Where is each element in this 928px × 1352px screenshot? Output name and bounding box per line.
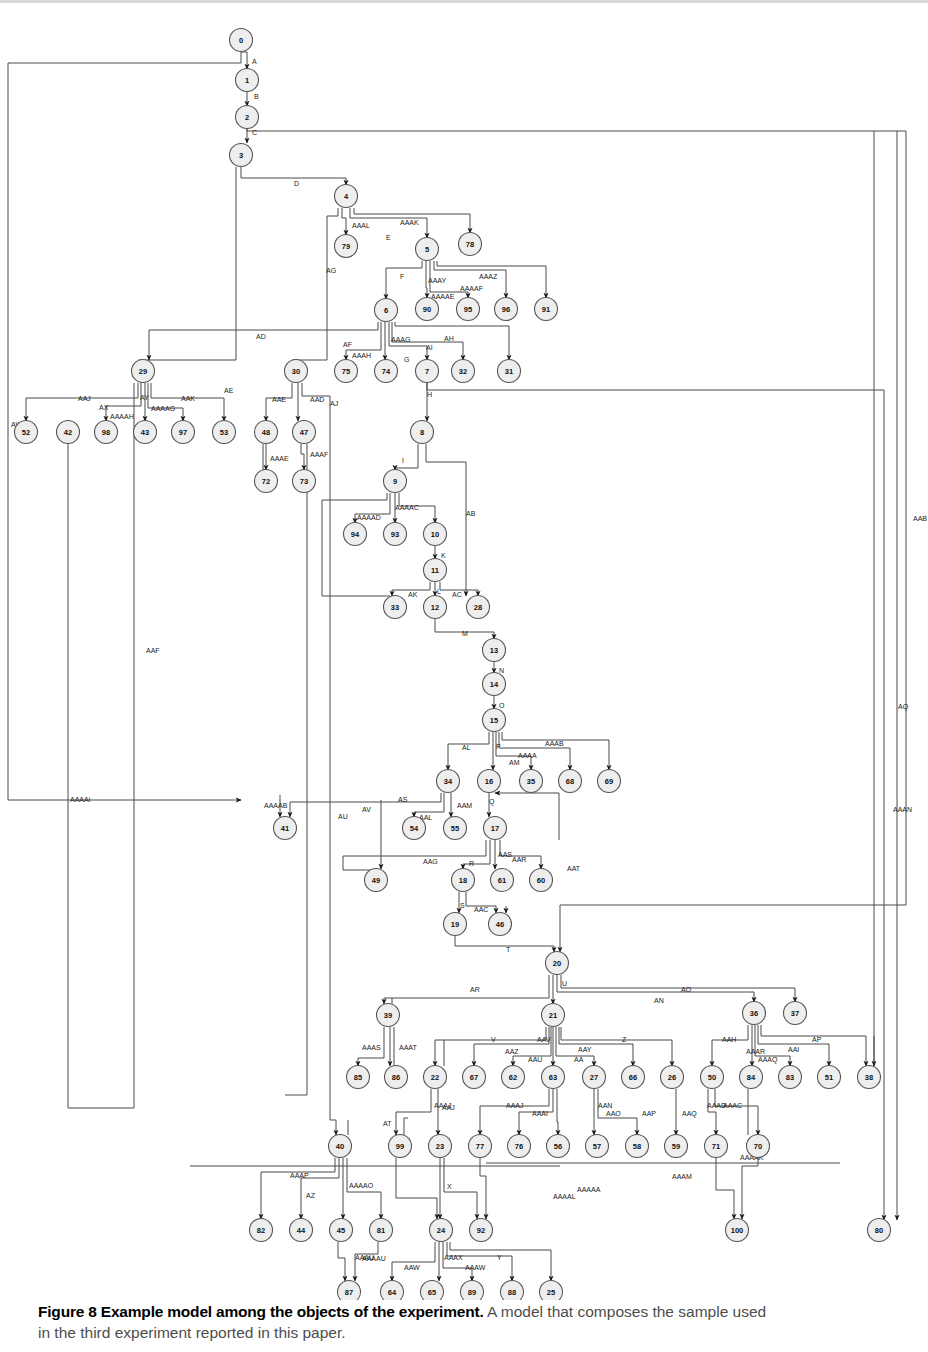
graph-node[interactable]: 15 bbox=[483, 709, 506, 732]
graph-node[interactable]: 1 bbox=[236, 69, 259, 92]
graph-node[interactable]: 0 bbox=[230, 29, 253, 52]
graph-node[interactable]: 5 bbox=[416, 238, 439, 261]
graph-node[interactable]: 7 bbox=[416, 360, 439, 383]
graph-node[interactable]: 63 bbox=[542, 1066, 565, 1089]
graph-node[interactable]: 89 bbox=[461, 1281, 484, 1301]
graph-node[interactable]: 14 bbox=[483, 673, 506, 696]
graph-node[interactable]: 50 bbox=[701, 1066, 724, 1089]
graph-node[interactable]: 43 bbox=[134, 421, 157, 444]
graph-node[interactable]: 38 bbox=[858, 1066, 881, 1089]
graph-node[interactable]: 99 bbox=[389, 1135, 412, 1158]
graph-node[interactable]: 68 bbox=[559, 770, 582, 793]
graph-node[interactable]: 55 bbox=[444, 817, 467, 840]
graph-node[interactable]: 92 bbox=[470, 1219, 493, 1242]
graph-node[interactable]: 93 bbox=[384, 523, 407, 546]
graph-node[interactable]: 18 bbox=[452, 869, 475, 892]
graph-node[interactable]: 42 bbox=[57, 421, 80, 444]
graph-node[interactable]: 84 bbox=[740, 1066, 763, 1089]
graph-node[interactable]: 29 bbox=[132, 360, 155, 383]
graph-node[interactable]: 52 bbox=[15, 421, 38, 444]
graph-node[interactable]: 88 bbox=[501, 1281, 524, 1301]
graph-node[interactable]: 83 bbox=[779, 1066, 802, 1089]
graph-node[interactable]: 9 bbox=[384, 470, 407, 493]
graph-node[interactable]: 91 bbox=[535, 298, 558, 321]
graph-node[interactable]: 3 bbox=[230, 144, 253, 167]
graph-node[interactable]: 46 bbox=[489, 913, 512, 936]
graph-node[interactable]: 94 bbox=[344, 523, 367, 546]
graph-node[interactable]: 59 bbox=[665, 1135, 688, 1158]
graph-node[interactable]: 72 bbox=[255, 470, 278, 493]
graph-node[interactable]: 44 bbox=[290, 1219, 313, 1242]
graph-node[interactable]: 96 bbox=[495, 298, 518, 321]
graph-node[interactable]: 36 bbox=[743, 1002, 766, 1025]
graph-node[interactable]: 95 bbox=[457, 298, 480, 321]
graph-node[interactable]: 12 bbox=[424, 596, 447, 619]
graph-node[interactable]: 100 bbox=[726, 1219, 749, 1242]
graph-node[interactable]: 76 bbox=[508, 1135, 531, 1158]
graph-node[interactable]: 82 bbox=[250, 1219, 273, 1242]
graph-node[interactable]: 73 bbox=[293, 470, 316, 493]
graph-node[interactable]: 8 bbox=[411, 421, 434, 444]
graph-node[interactable]: 58 bbox=[626, 1135, 649, 1158]
graph-node[interactable]: 71 bbox=[705, 1135, 728, 1158]
graph-node[interactable]: 23 bbox=[429, 1135, 452, 1158]
graph-node[interactable]: 37 bbox=[784, 1002, 807, 1025]
graph-node[interactable]: 11 bbox=[424, 559, 447, 582]
graph-node[interactable]: 19 bbox=[444, 913, 467, 936]
graph-node[interactable]: 34 bbox=[437, 770, 460, 793]
graph-node[interactable]: 56 bbox=[547, 1135, 570, 1158]
graph-node[interactable]: 20 bbox=[546, 952, 569, 975]
graph-node[interactable]: 54 bbox=[403, 817, 426, 840]
graph-node[interactable]: 4 bbox=[335, 185, 358, 208]
graph-node[interactable]: 86 bbox=[385, 1066, 408, 1089]
graph-node[interactable]: 74 bbox=[375, 360, 398, 383]
graph-node[interactable]: 77 bbox=[469, 1135, 492, 1158]
graph-node[interactable]: 97 bbox=[172, 421, 195, 444]
graph-node[interactable]: 53 bbox=[213, 421, 236, 444]
graph-node[interactable]: 60 bbox=[530, 869, 553, 892]
graph-node[interactable]: 66 bbox=[622, 1066, 645, 1089]
graph-node[interactable]: 39 bbox=[377, 1004, 400, 1027]
graph-node[interactable]: 6 bbox=[375, 299, 398, 322]
graph-node[interactable]: 79 bbox=[335, 235, 358, 258]
graph-node[interactable]: 62 bbox=[502, 1066, 525, 1089]
graph-node[interactable]: 10 bbox=[424, 523, 447, 546]
graph-node[interactable]: 70 bbox=[747, 1135, 770, 1158]
graph-node[interactable]: 17 bbox=[484, 817, 507, 840]
graph-node[interactable]: 31 bbox=[498, 360, 521, 383]
graph-node[interactable]: 25 bbox=[540, 1281, 563, 1301]
graph-node[interactable]: 57 bbox=[586, 1135, 609, 1158]
graph-node[interactable]: 65 bbox=[421, 1281, 444, 1301]
graph-node[interactable]: 61 bbox=[491, 869, 514, 892]
graph-node[interactable]: 22 bbox=[424, 1066, 447, 1089]
graph-node[interactable]: 40 bbox=[329, 1135, 352, 1158]
graph-node[interactable]: 47 bbox=[293, 421, 316, 444]
graph-node[interactable]: 30 bbox=[285, 360, 308, 383]
graph-node[interactable]: 75 bbox=[335, 360, 358, 383]
graph-node[interactable]: 33 bbox=[384, 596, 407, 619]
graph-node[interactable]: 13 bbox=[483, 639, 506, 662]
graph-node[interactable]: 81 bbox=[370, 1219, 393, 1242]
graph-node[interactable]: 69 bbox=[598, 770, 621, 793]
graph-node[interactable]: 21 bbox=[542, 1004, 565, 1027]
graph-node[interactable]: 16 bbox=[478, 770, 501, 793]
graph-node[interactable]: 32 bbox=[452, 360, 475, 383]
graph-node[interactable]: 85 bbox=[347, 1066, 370, 1089]
graph-node[interactable]: 49 bbox=[365, 869, 388, 892]
graph-node[interactable]: 51 bbox=[818, 1066, 841, 1089]
graph-node[interactable]: 45 bbox=[330, 1219, 353, 1242]
graph-node[interactable]: 48 bbox=[255, 421, 278, 444]
graph-node[interactable]: 28 bbox=[467, 596, 490, 619]
graph-node[interactable]: 67 bbox=[463, 1066, 486, 1089]
graph-node[interactable]: 64 bbox=[381, 1281, 404, 1301]
graph-node[interactable]: 80 bbox=[868, 1219, 891, 1242]
graph-node[interactable]: 2 bbox=[236, 106, 259, 129]
graph-node[interactable]: 90 bbox=[416, 298, 439, 321]
graph-node[interactable]: 78 bbox=[459, 233, 482, 256]
graph-node[interactable]: 35 bbox=[520, 770, 543, 793]
graph-node[interactable]: 41 bbox=[274, 817, 297, 840]
graph-node[interactable]: 87 bbox=[338, 1281, 361, 1301]
graph-node[interactable]: 27 bbox=[583, 1066, 606, 1089]
graph-node[interactable]: 24 bbox=[430, 1219, 453, 1242]
graph-node[interactable]: 98 bbox=[95, 421, 118, 444]
